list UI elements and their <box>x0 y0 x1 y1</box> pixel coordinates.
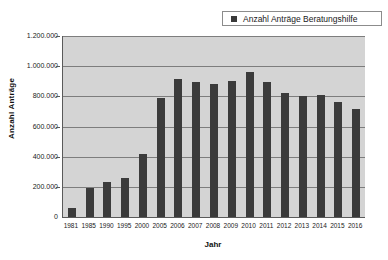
bar-slot <box>152 36 170 217</box>
x-tick-label: 2010 <box>240 221 258 233</box>
bar <box>299 96 307 217</box>
bar <box>103 182 111 217</box>
bar <box>352 109 360 217</box>
x-tick-label: 2013 <box>293 221 311 233</box>
plot-area <box>62 36 365 218</box>
bar <box>317 95 325 217</box>
bar <box>263 82 271 217</box>
bar-slot <box>116 36 134 217</box>
bar-slot <box>205 36 223 217</box>
x-tick-label: 2009 <box>222 221 240 233</box>
bar-slot <box>81 36 99 217</box>
bar-slot <box>312 36 330 217</box>
bar-slot <box>170 36 188 217</box>
x-tick-label: 2000 <box>133 221 151 233</box>
y-tick-label: 1.000.000 <box>6 62 58 70</box>
x-tick-label: 2016 <box>346 221 364 233</box>
y-tick-label: 600.000 <box>6 123 58 131</box>
bars-layer <box>63 36 365 217</box>
x-tick-label: 2015 <box>328 221 346 233</box>
x-tick-label: 1995 <box>115 221 133 233</box>
bar <box>334 102 342 217</box>
chart-legend: Anzahl Anträge Beratungshilfe <box>222 11 382 26</box>
x-tick-label: 1981 <box>62 221 80 233</box>
x-tick-label: 1990 <box>98 221 116 233</box>
bar <box>228 81 236 218</box>
y-tick-label: 200.000 <box>6 183 58 191</box>
bar <box>174 79 182 217</box>
x-tick-label: 2012 <box>275 221 293 233</box>
bar <box>192 82 200 217</box>
bar-slot <box>258 36 276 217</box>
y-tick-label: 1.200.000 <box>6 32 58 40</box>
x-tick-label: 1985 <box>80 221 98 233</box>
x-axis-title: Jahr <box>62 240 364 249</box>
legend-label: Anzahl Anträge Beratungshilfe <box>243 14 357 24</box>
bar <box>281 93 289 217</box>
x-tick-label: 2007 <box>186 221 204 233</box>
bar <box>139 154 147 217</box>
y-tick-mark <box>56 66 60 67</box>
x-tick-label: 2006 <box>169 221 187 233</box>
bar-slot <box>276 36 294 217</box>
y-tick-label: 800.000 <box>6 92 58 100</box>
bar-slot <box>294 36 312 217</box>
legend-swatch-icon <box>231 16 237 22</box>
bar-slot <box>329 36 347 217</box>
bar <box>121 178 129 217</box>
bar-slot <box>241 36 259 217</box>
x-tick-label: 2011 <box>257 221 275 233</box>
bar <box>210 84 218 217</box>
bar-slot <box>223 36 241 217</box>
bar-slot <box>99 36 117 217</box>
y-tick-label: 0 <box>6 213 58 221</box>
x-tick-label: 2008 <box>204 221 222 233</box>
y-axis-ticks: 1.200.000 1.000.000 800.000 600.000 400.… <box>0 36 58 217</box>
x-axis-ticks: 1981198519901995200020052006200720082009… <box>62 221 364 233</box>
bar-slot <box>134 36 152 217</box>
y-tick-mark <box>56 157 60 158</box>
bar <box>246 72 254 217</box>
y-tick-mark <box>56 187 60 188</box>
bar <box>86 188 94 217</box>
x-tick-label: 2005 <box>151 221 169 233</box>
bar-slot <box>63 36 81 217</box>
y-tick-mark <box>56 127 60 128</box>
y-tick-label: 400.000 <box>6 153 58 161</box>
bar <box>157 98 165 217</box>
bar <box>68 208 76 217</box>
x-tick-label: 2014 <box>311 221 329 233</box>
y-tick-mark <box>56 36 60 37</box>
bar-slot <box>347 36 365 217</box>
bar-slot <box>187 36 205 217</box>
y-tick-mark <box>56 96 60 97</box>
